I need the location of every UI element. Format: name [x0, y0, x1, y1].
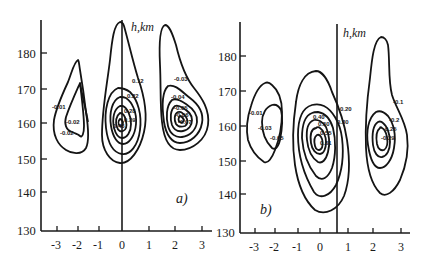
contour-label: -0.06: [175, 112, 189, 118]
y-tick-label: 180: [218, 50, 237, 64]
y-tick-label: 150: [17, 153, 36, 167]
x-tick-label: 1: [345, 240, 351, 254]
y-ticks-b: 180 170 160 150 140 130: [216, 50, 246, 240]
contour-group-a-right: -0.03 -0.04 -0.05 -0.06 -0.07: [160, 25, 209, 150]
x-tick-label: 3: [199, 238, 205, 252]
x-tick-label: 2: [172, 238, 178, 252]
x-tick-label: 3: [398, 240, 404, 254]
contour-label: -0.01: [52, 104, 66, 110]
contour-label: -0.02: [60, 130, 74, 136]
contour-label: 0.61: [320, 140, 332, 146]
x-tick-label: 0: [317, 240, 323, 254]
contour-label: 0.20: [340, 106, 352, 112]
y-tick-label: 130: [216, 226, 235, 240]
y-tick-label: 170: [17, 83, 36, 97]
y-tick-label: 130: [17, 224, 36, 238]
panel-label-a: a): [176, 191, 188, 207]
contour-label: 0.50: [318, 121, 330, 127]
contour-label: -0.02: [66, 119, 80, 125]
contour-label: -0.1: [393, 99, 404, 105]
contour-label: -0.29: [381, 135, 395, 141]
contour-label: -0.05: [174, 105, 188, 111]
contour-group-a-center: 0.12 0.22 0.28 0.39 0.43: [102, 22, 146, 163]
y-tick-label: 140: [17, 186, 36, 200]
contour-group-b-center: 0.20 0.30 0.40 0.50 0.55 0.61: [293, 71, 352, 212]
contour-label: 0.30: [337, 119, 349, 125]
contour-label: 0.40: [313, 114, 325, 120]
x-tick-label: -3: [249, 240, 259, 254]
contour-label: -0.25: [383, 126, 397, 132]
panel-label-b: b): [260, 202, 272, 218]
contour-label: -0.03: [258, 125, 272, 131]
contour-label: 0.39: [124, 117, 136, 123]
y-tick-label: 160: [218, 120, 237, 134]
y-tick-label: 180: [17, 47, 36, 61]
contour-label: -0.07: [178, 119, 192, 125]
x-tick-label: -2: [269, 240, 279, 254]
contour-group-a-left: -0.01 -0.02 -0.02: [52, 60, 88, 153]
contour-label: -0.04: [171, 94, 185, 100]
axis-title-h-km-b: h,km: [343, 26, 366, 40]
panel-b: 180 170 160 150 140 130 -3 -2 -1 0 1 2 3…: [216, 22, 410, 254]
contour-figure: 180 170 160 150 140 130 -3 -2 -1 0 1 2 3…: [0, 0, 431, 262]
x-tick-label: 1: [146, 238, 152, 252]
x-tick-label: -3: [51, 238, 61, 252]
x-tick-label: -2: [72, 238, 82, 252]
x-ticks-a: -3 -2 -1 0 1 2 3: [51, 226, 205, 252]
y-tick-label: 170: [218, 85, 237, 99]
contour-group-b-right: -0.1 -0.2 -0.25 -0.29: [366, 37, 408, 195]
y-ticks-a: 180 170 160 150 140 130: [17, 47, 47, 238]
contour-label: 0.43: [113, 123, 125, 129]
contour-group-b-left: -0.01 -0.03 -0.05: [247, 83, 284, 163]
contour-label: -0.01: [249, 110, 263, 116]
contour-label: -0.2: [389, 117, 400, 123]
x-tick-label: 2: [370, 240, 376, 254]
x-tick-label: -1: [93, 238, 103, 252]
contour-label: -0.03: [174, 76, 188, 82]
x-ticks-b: -3 -2 -1 0 1 2 3: [249, 228, 404, 254]
x-tick-label: 0: [119, 238, 125, 252]
contour-label: 0.22: [127, 93, 139, 99]
panel-a: 180 170 160 150 140 130 -3 -2 -1 0 1 2 3…: [17, 20, 212, 252]
contour-label: -0.05: [270, 135, 284, 141]
y-tick-label: 140: [218, 188, 237, 202]
y-tick-label: 160: [17, 117, 36, 131]
contour-label: 0.55: [320, 130, 332, 136]
axis-title-h-km-a: h,km: [131, 20, 154, 34]
y-tick-label: 150: [218, 155, 237, 169]
contour-label: 0.28: [124, 108, 136, 114]
x-tick-label: -1: [292, 240, 302, 254]
contour-label: 0.12: [132, 78, 144, 84]
